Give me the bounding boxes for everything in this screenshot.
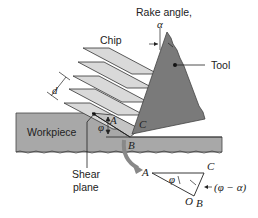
workpiece-label: Workpiece [27, 126, 77, 138]
alpha-label: α [157, 18, 163, 30]
inset-o-label: O [185, 195, 193, 207]
chip-label: Chip [100, 34, 122, 46]
shear-plane-label-line2: plane [73, 181, 99, 193]
shear-plane-label-line1: Shear [72, 168, 101, 180]
inset-a-label: A [141, 166, 149, 178]
rake-angle-label: Rake angle, [136, 6, 192, 18]
d-dimension [47, 72, 70, 100]
inset-c-label: C [207, 160, 215, 172]
tool-label: Tool [211, 59, 230, 71]
inset-b-label: B [196, 197, 203, 209]
point-a-label: A [109, 114, 117, 126]
point-c-label: C [139, 118, 147, 130]
point-b-label: B [128, 139, 135, 151]
inset-phi-label: φ [169, 173, 175, 185]
d-label: d [52, 84, 58, 96]
inset-triangle [152, 173, 212, 196]
orthogonal-cutting-diagram: Rake angle, α Chip Tool d Workpiece φ A … [0, 0, 258, 218]
inset-phi-minus-alpha-label: (φ − α) [214, 181, 246, 194]
phi-label: φ [98, 121, 104, 133]
diagram-canvas: Rake angle, α Chip Tool d Workpiece φ A … [0, 0, 258, 218]
